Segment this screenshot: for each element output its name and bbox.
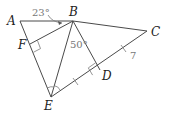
angle-arc-23: [48, 15, 62, 23]
segment-CE: [51, 31, 147, 97]
angle-arrowhead: [58, 21, 62, 25]
segment-BE: [51, 21, 73, 97]
geometry-diagram: A B C D E F 23° 50° 7: [0, 0, 169, 114]
length-label-7: 7: [130, 50, 136, 61]
angle-label-50: 50°: [70, 39, 88, 50]
segment-AE: [20, 21, 51, 97]
segment-BF: [30, 21, 73, 44]
point-label-B: B: [68, 5, 78, 19]
angle-arc-E-left: [47, 87, 54, 88]
point-label-C: C: [151, 25, 160, 39]
point-label-E: E: [43, 99, 53, 113]
right-angle-marker-F: [33, 40, 40, 52]
point-label-A: A: [6, 14, 16, 28]
segment-BC: [73, 21, 147, 31]
angle-label-23: 23°: [32, 7, 50, 18]
point-label-D: D: [101, 69, 112, 83]
point-label-F: F: [17, 38, 27, 52]
angle-arc-E-right: [55, 86, 60, 90]
